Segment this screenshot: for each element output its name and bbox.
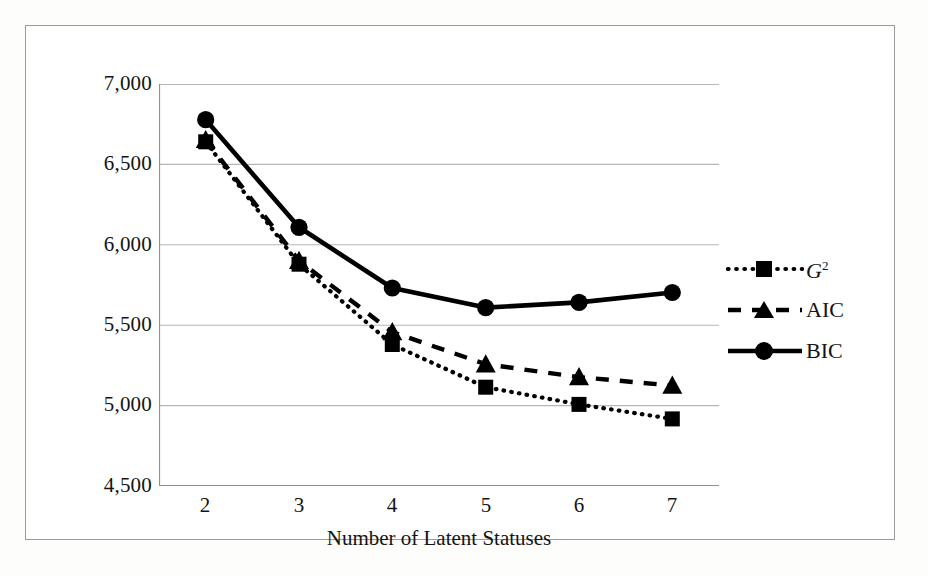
data-point-marker	[197, 111, 214, 128]
data-point-marker	[572, 397, 587, 412]
x-tick-label: 2	[185, 494, 225, 516]
legend-item-g2[interactable]: G2	[726, 254, 828, 284]
legend-swatch-dotted-square	[726, 256, 804, 282]
y-tick-label: 4,500	[60, 475, 152, 496]
y-tick-label: 6,000	[60, 234, 152, 255]
figure-frame: 7,000 6,500 6,000 5,500 5,000 4,500	[25, 25, 895, 540]
legend-item-aic[interactable]: AIC	[726, 295, 844, 325]
x-tick-label: 7	[652, 494, 692, 516]
legend-label-bic: BIC	[804, 339, 843, 363]
data-point-marker	[384, 279, 401, 296]
y-tick-label: 6,500	[60, 153, 152, 174]
data-point-marker	[664, 284, 681, 301]
legend-swatch-solid-circle	[726, 338, 804, 364]
y-tick-label: 7,000	[60, 73, 152, 94]
x-axis-tick-labels: 2 3 4 5 6 7	[159, 494, 719, 524]
legend-label-aic: AIC	[804, 298, 844, 322]
data-point-marker	[290, 219, 307, 236]
series-bic	[197, 111, 681, 316]
x-tick-label: 3	[279, 494, 319, 516]
x-tick-label: 6	[559, 494, 599, 516]
series-g2	[198, 134, 680, 426]
axes	[159, 84, 719, 486]
data-series-layer	[196, 111, 683, 426]
plot-area	[159, 84, 719, 486]
x-axis-title: Number of Latent Statuses	[159, 526, 719, 550]
y-tick-label: 5,000	[60, 394, 152, 415]
series-line	[206, 140, 673, 386]
x-tick-label: 4	[372, 494, 412, 516]
x-tick-label: 5	[466, 494, 506, 516]
data-point-marker	[570, 294, 587, 311]
data-point-marker	[662, 376, 682, 394]
series-line	[206, 120, 673, 308]
figure-canvas: 7,000 6,500 6,000 5,500 5,000 4,500	[0, 0, 928, 576]
legend-item-bic[interactable]: BIC	[726, 336, 843, 366]
legend-swatch-dashed-triangle	[726, 297, 804, 323]
data-point-marker	[477, 299, 494, 316]
chart-legend: G2 AIC BIC	[726, 254, 896, 370]
data-point-marker	[665, 411, 680, 426]
chart-svg	[159, 84, 719, 486]
y-tick-label: 5,500	[60, 314, 152, 335]
data-point-marker	[478, 380, 493, 395]
gridlines	[159, 85, 719, 406]
legend-label-g2: G2	[804, 254, 828, 283]
series-aic	[196, 130, 683, 394]
y-axis-tick-labels: 7,000 6,500 6,000 5,500 5,000 4,500	[56, 84, 152, 486]
